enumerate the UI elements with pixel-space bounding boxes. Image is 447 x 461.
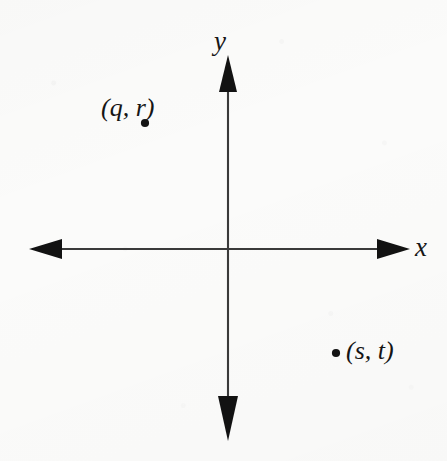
y-axis-label: y — [214, 28, 226, 55]
point-label-qr: (q, r) — [101, 95, 154, 121]
point-label-st: (s, t) — [346, 338, 394, 364]
x-axis-left-arrowhead — [29, 239, 62, 259]
y-axis-top-arrowhead — [219, 55, 237, 92]
axes-drawing — [0, 0, 447, 461]
x-axis-label: x — [415, 234, 427, 261]
coordinate-plane-figure: y x (q, r) (s, t) — [0, 0, 447, 461]
point-dot-st — [332, 349, 340, 357]
x-axis-right-arrowhead — [377, 239, 410, 259]
y-axis-bottom-arrowhead — [218, 396, 238, 441]
